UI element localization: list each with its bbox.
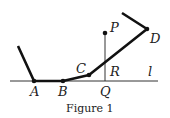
label-C: C bbox=[76, 61, 86, 76]
figure-1-diagram: A B C D P Q R l Figure 1 bbox=[0, 0, 170, 118]
point-D bbox=[145, 27, 150, 32]
point-B bbox=[61, 79, 66, 84]
label-A: A bbox=[29, 84, 39, 99]
label-B: B bbox=[57, 84, 68, 99]
figure-caption: Figure 1 bbox=[66, 102, 114, 115]
point-A bbox=[32, 79, 37, 84]
point-P bbox=[103, 31, 108, 36]
label-Q: Q bbox=[100, 84, 111, 99]
label-R: R bbox=[109, 64, 120, 79]
label-D: D bbox=[149, 31, 161, 46]
label-l: l bbox=[148, 64, 152, 79]
label-P: P bbox=[109, 20, 119, 35]
point-C bbox=[87, 73, 92, 78]
